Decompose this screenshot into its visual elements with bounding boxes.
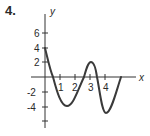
y-tick-label-neg4: -4 [27, 102, 36, 113]
function-graph: x y 1 2 3 4 6 4 2 -2 -4 [0, 0, 150, 136]
x-axis-label: x [138, 72, 145, 83]
x-tick-label-4: 4 [103, 82, 109, 93]
x-tick-label-3: 3 [88, 82, 94, 93]
x-tick-label-1: 1 [58, 82, 64, 93]
function-curve [45, 48, 121, 113]
y-tick-label-6: 6 [34, 28, 40, 39]
y-tick-label-4: 4 [34, 43, 40, 54]
y-tick-label-2: 2 [34, 57, 40, 68]
y-tick-label-neg2: -2 [27, 87, 36, 98]
y-axis-label: y [49, 6, 56, 17]
